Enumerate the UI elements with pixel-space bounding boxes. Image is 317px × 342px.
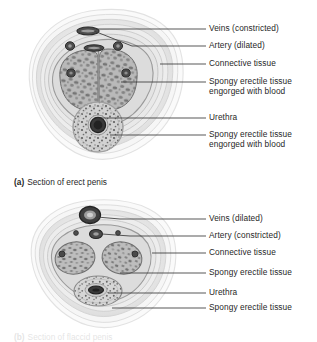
label-connective-tissue-flaccid: Connective tissue — [209, 248, 276, 258]
label-artery-dilated: Artery (dilated) — [209, 41, 265, 51]
label-artery-constricted: Artery (constricted) — [209, 231, 281, 241]
caption-panel-b: (b)Section of flaccid penis — [14, 332, 112, 342]
label-veins-constricted: Veins (constricted) — [209, 24, 279, 34]
label-veins-dilated: Veins (dilated) — [209, 214, 263, 224]
panel-flaccid-penis: Veins (dilated) Artery (constricted) Con… — [0, 196, 317, 341]
label-spongy-erectile-tissue-engorged-lower: Spongy erectile tissue engorged with blo… — [209, 130, 292, 149]
caption-tag-a: (a) — [14, 177, 24, 187]
labels-flaccid: Veins (dilated) Artery (constricted) Con… — [0, 196, 317, 341]
label-spongy-erectile-tissue-engorged-upper: Spongy erectile tissue engorged with blo… — [209, 77, 292, 96]
label-spongy-erectile-tissue-upper: Spongy erectile tissue — [209, 268, 292, 278]
caption-text-b: Section of flaccid penis — [28, 332, 113, 342]
panel-erect-penis: Veins (constricted) Artery (dilated) Con… — [0, 0, 317, 196]
label-urethra-flaccid: Urethra — [209, 288, 237, 298]
label-connective-tissue: Connective tissue — [209, 59, 276, 69]
caption-tag-b: (b) — [14, 332, 25, 342]
caption-panel-a: (a)Section of erect penis — [14, 177, 107, 187]
caption-text-a: Section of erect penis — [27, 177, 107, 187]
label-spongy-erectile-tissue-lower: Spongy erectile tissue — [209, 303, 292, 313]
label-urethra: Urethra — [209, 113, 237, 123]
labels-erect: Veins (constricted) Artery (dilated) Con… — [0, 0, 317, 196]
